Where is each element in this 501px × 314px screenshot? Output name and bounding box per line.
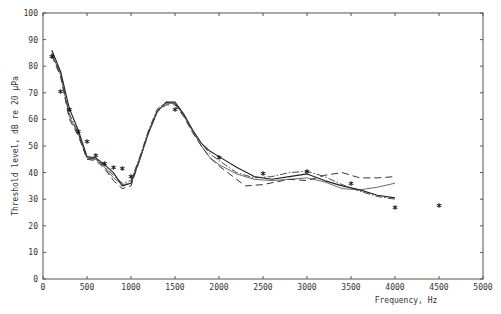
data-point-asterisk: * [348,180,354,191]
data-point-asterisk: * [304,168,310,179]
data-point-asterisk: * [110,164,116,175]
x-tick-label: 500 [80,283,95,292]
y-tick-label: 0 [33,275,38,284]
series-line-curve-solid [52,50,395,198]
y-tick-label: 80 [28,62,38,71]
y-tick-label: 10 [28,248,38,257]
y-tick-label: 90 [28,36,38,45]
x-tick-label: 0 [41,283,46,292]
data-point-asterisk: * [392,204,398,215]
plot-frame [43,13,483,279]
data-point-asterisk: * [93,152,99,163]
y-tick-label: 70 [28,89,38,98]
data-point-asterisk: * [172,106,178,117]
data-point-asterisk: * [66,106,72,117]
x-tick-label: 2000 [209,283,228,292]
y-tick-label: 30 [28,195,38,204]
x-tick-label: 1000 [121,283,140,292]
y-axis-label: Threshold level, dB re 20 µPa [11,76,20,216]
x-tick-label: 3500 [341,283,360,292]
data-point-asterisk: * [49,53,55,64]
data-point-asterisk: * [75,128,81,139]
x-tick-label: 1500 [165,283,184,292]
x-axis-label: Frequency, Hz [375,296,438,305]
x-tick-label: 3000 [297,283,316,292]
data-point-asterisk: * [436,202,442,213]
y-tick-label: 60 [28,115,38,124]
x-tick-label: 4500 [429,283,448,292]
y-tick-label: 20 [28,222,38,231]
series-line-curve-dash-dot [52,53,395,199]
data-point-asterisk: * [260,170,266,181]
series-group: ***************** [49,50,442,214]
data-point-asterisk: * [58,88,64,99]
y-tick-label: 40 [28,169,38,178]
y-tick-label: 100 [24,9,39,18]
x-tick-label: 4000 [385,283,404,292]
axes: 0500100015002000250030003500400045005000… [24,9,493,292]
data-point-asterisk: * [128,173,134,184]
threshold-chart: 0500100015002000250030003500400045005000… [0,0,501,314]
x-tick-label: 2500 [253,283,272,292]
data-point-asterisk: * [84,138,90,149]
x-tick-label: 5000 [473,283,492,292]
data-point-asterisk: * [102,160,108,171]
data-point-asterisk: * [216,154,222,165]
data-point-asterisk: * [119,165,125,176]
y-tick-label: 50 [28,142,38,151]
